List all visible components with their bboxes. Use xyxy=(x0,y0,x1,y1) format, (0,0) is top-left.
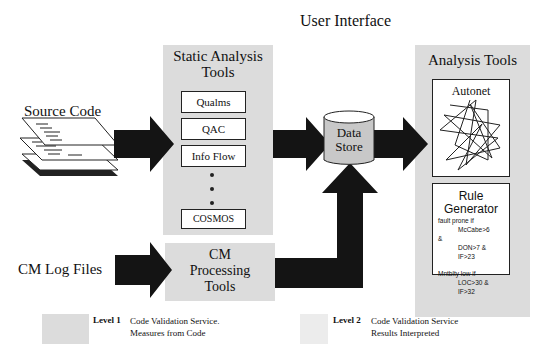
legend-level2-swatch xyxy=(300,314,328,344)
arrow-icon xyxy=(114,116,174,172)
source-code-label: Source Code xyxy=(24,103,101,120)
legend-level2-line1: Code Validation Service xyxy=(371,315,458,327)
autonet-network-icon xyxy=(440,100,500,170)
legend-level1-text: Code Validation Service. Measures from C… xyxy=(130,315,220,339)
arrow-icon xyxy=(273,117,330,171)
data-store-label: Data Store xyxy=(324,126,374,154)
cm-log-files-label: CM Log Files xyxy=(18,261,102,278)
legend-level1-label: Level 1 xyxy=(93,315,121,325)
document-stack-icon xyxy=(20,118,118,176)
arrow-icon xyxy=(115,242,172,298)
diagram-graphics xyxy=(0,0,543,359)
legend-level2-label: Level 2 xyxy=(333,315,361,325)
legend-level2-line2: Results Interpreted xyxy=(371,327,458,339)
arrow-icon xyxy=(373,117,428,171)
legend-level2-text: Code Validation Service Results Interpre… xyxy=(371,315,458,339)
data-store-line1: Data xyxy=(324,126,374,140)
legend-level1-swatch xyxy=(42,314,89,344)
data-store-line2: Store xyxy=(324,140,374,154)
legend-level1-line1: Code Validation Service. xyxy=(130,315,220,327)
legend-level1-line2: Measures from Code xyxy=(130,327,220,339)
arrow-icon xyxy=(275,163,378,288)
